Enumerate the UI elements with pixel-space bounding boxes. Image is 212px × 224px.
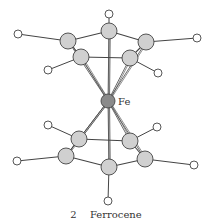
fe-c-bond bbox=[68, 41, 108, 101]
iron-atom bbox=[101, 94, 115, 108]
hydrogen-atom bbox=[154, 69, 162, 77]
carbon-atom bbox=[60, 33, 76, 49]
hydrogen-atom bbox=[104, 197, 112, 205]
hydrogen-atom bbox=[190, 161, 198, 169]
carbon-atom bbox=[71, 131, 87, 147]
carbon-atom bbox=[101, 159, 117, 175]
carbon-atom bbox=[73, 49, 89, 65]
fe-c-bond bbox=[68, 101, 110, 156]
carbon-atom bbox=[122, 50, 138, 66]
hydrogen-atom bbox=[105, 10, 113, 18]
fe-c-bond bbox=[108, 101, 145, 159]
hydrogen-atom bbox=[44, 66, 52, 74]
hydrogen-atom bbox=[14, 30, 22, 38]
carbon-atom bbox=[137, 151, 153, 167]
carbon-atom bbox=[122, 133, 138, 149]
fe-c-bond bbox=[110, 101, 111, 167]
figure-number: 2 bbox=[70, 209, 76, 220]
ferrocene-structure-diagram: Fe bbox=[0, 0, 212, 224]
figure-caption: 2 Ferrocene bbox=[0, 209, 212, 220]
carbon-atom bbox=[101, 23, 117, 39]
carbon-atom bbox=[58, 148, 74, 164]
hydrogen-atom bbox=[13, 157, 21, 165]
hydrogen-atom bbox=[44, 121, 52, 129]
figure-title: Ferrocene bbox=[90, 209, 142, 220]
fe-c-bond bbox=[110, 31, 111, 101]
iron-label: Fe bbox=[118, 96, 130, 107]
hydrogen-atom bbox=[193, 34, 201, 42]
hydrogen-atom bbox=[153, 123, 161, 131]
carbon-atom bbox=[138, 34, 154, 50]
fe-c-bond bbox=[110, 101, 147, 159]
